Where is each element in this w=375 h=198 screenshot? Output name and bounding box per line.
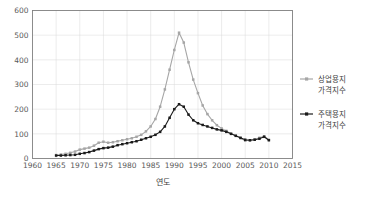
x-tick-label: 2000 — [212, 161, 231, 170]
series-marker — [126, 138, 129, 141]
series-marker — [201, 124, 204, 127]
series-marker — [249, 139, 252, 142]
series-marker — [140, 134, 143, 137]
series-marker — [211, 127, 214, 130]
series-marker — [183, 105, 186, 108]
series-marker — [126, 142, 129, 145]
x-tick-label: 2015 — [283, 161, 302, 170]
series-marker — [116, 144, 119, 147]
series-marker — [164, 88, 167, 91]
series-marker — [140, 139, 143, 142]
series-marker — [79, 148, 82, 151]
chart-canvas: 0100200300400500600 19601965197019751980… — [0, 0, 375, 198]
series-marker — [97, 141, 100, 144]
series-marker — [83, 147, 86, 150]
series-marker — [97, 148, 100, 151]
legend-entry-2[interactable]: 주택용지가격지수 — [300, 109, 346, 130]
series-marker — [93, 149, 96, 152]
series-marker — [159, 131, 162, 134]
series-marker — [159, 105, 162, 108]
series-marker — [206, 113, 209, 116]
series-marker — [74, 150, 77, 153]
series-marker — [173, 108, 176, 111]
series-marker — [149, 125, 152, 128]
legend-label-line1: 상업용지 — [318, 74, 346, 84]
x-tick-label: 1960 — [23, 161, 42, 170]
y-tick-label: 400 — [14, 56, 29, 65]
series-marker — [244, 139, 247, 142]
series-marker — [112, 145, 115, 148]
series-marker — [164, 125, 167, 128]
series-marker — [102, 147, 105, 150]
chart-legend: 상업용지가격지수주택용지가격지수 — [300, 74, 346, 130]
legend-label-line1: 주택용지 — [318, 109, 346, 119]
series-marker — [83, 152, 86, 155]
series-marker — [93, 144, 96, 147]
x-tick-label: 1970 — [70, 161, 89, 170]
series-marker — [60, 154, 63, 157]
series-marker — [145, 130, 148, 133]
series-marker — [168, 117, 171, 120]
series-marker — [135, 136, 138, 139]
series-marker — [216, 128, 219, 131]
series-marker — [197, 122, 200, 125]
series-marker — [64, 154, 67, 157]
series-marker — [74, 154, 77, 157]
series-marker — [154, 118, 157, 121]
series-marker — [239, 137, 242, 140]
series-marker — [230, 133, 233, 136]
series-marker — [88, 146, 91, 149]
series-marker — [253, 139, 256, 142]
data-series-layer — [55, 31, 270, 156]
series-marker — [135, 140, 138, 143]
series-marker — [183, 41, 186, 44]
x-tick-label: 1985 — [141, 161, 160, 170]
y-axis-tick-labels: 0100200300400500600 — [14, 6, 29, 163]
series-marker — [178, 31, 181, 34]
series-marker — [107, 141, 110, 144]
series-marker — [211, 119, 214, 122]
series-marker — [107, 146, 110, 149]
series-marker — [69, 152, 72, 155]
series-marker — [154, 134, 157, 137]
y-tick-label: 100 — [14, 130, 29, 139]
series-2 — [55, 103, 270, 157]
legend-entry-1[interactable]: 상업용지가격지수 — [300, 74, 346, 95]
series-marker — [88, 151, 91, 154]
series-marker — [220, 129, 223, 132]
series-marker — [112, 141, 115, 144]
series-marker — [197, 92, 200, 95]
x-tick-label: 1995 — [188, 161, 207, 170]
series-marker — [79, 153, 82, 156]
y-tick-label: 200 — [14, 105, 29, 114]
series-marker — [268, 139, 271, 142]
series-marker — [55, 154, 58, 157]
x-axis-title: 연도 — [156, 178, 170, 187]
series-marker — [178, 103, 181, 106]
x-tick-label: 1980 — [117, 161, 136, 170]
series-marker — [258, 138, 261, 141]
series-marker — [263, 136, 266, 139]
series-marker — [216, 124, 219, 127]
gridlines — [33, 11, 293, 159]
series-marker — [121, 139, 124, 142]
x-tick-label: 2010 — [259, 161, 278, 170]
series-marker — [69, 154, 72, 157]
series-marker — [145, 137, 148, 140]
y-tick-label: 300 — [14, 80, 29, 89]
series-marker — [149, 136, 152, 139]
series-marker — [206, 125, 209, 128]
x-tick-label: 1965 — [47, 161, 66, 170]
series-marker — [187, 113, 190, 116]
y-tick-label: 500 — [14, 31, 29, 40]
legend-label-line2: 가격지수 — [318, 85, 346, 95]
series-marker — [225, 131, 228, 134]
legend-label-line2: 가격지수 — [318, 120, 346, 130]
series-marker — [187, 61, 190, 64]
x-tick-label: 2005 — [236, 161, 255, 170]
x-axis-tick-labels: 1960196519701975198019851990199520002005… — [23, 161, 302, 170]
series-marker — [131, 137, 134, 140]
series-marker — [102, 140, 105, 143]
x-tick-label: 1990 — [165, 161, 184, 170]
land-price-index-chart: 0100200300400500600 19601965197019751980… — [0, 0, 375, 198]
